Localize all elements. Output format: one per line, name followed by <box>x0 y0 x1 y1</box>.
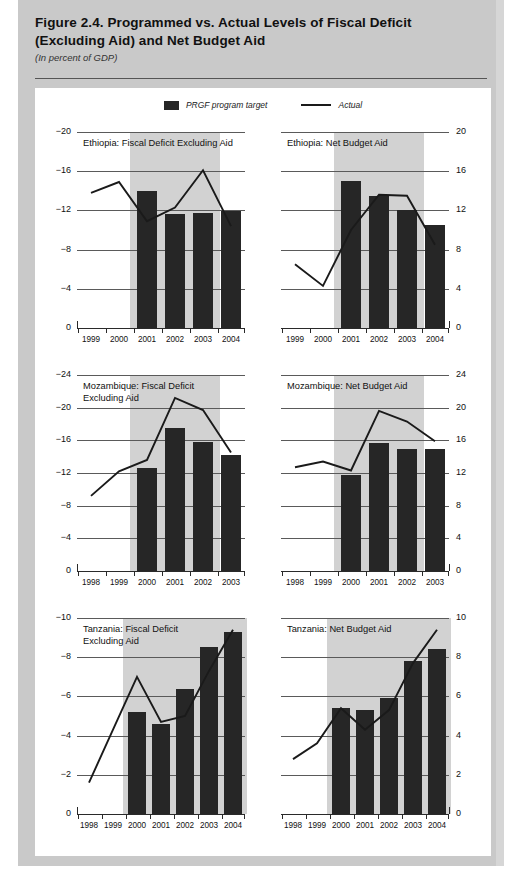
x-axis-tick-label: 2004 <box>421 335 449 344</box>
figure-title: Figure 2.4. Programmed vs. Actual Levels… <box>35 14 487 49</box>
chart-tanzania-fiscal-deficit: 0−2−4−6−8−101998199920002001200220032004… <box>35 604 263 844</box>
actual-line-path <box>89 630 233 783</box>
x-axis-tick-label: 2000 <box>125 821 149 830</box>
figure-title-line2: (Excluding Aid) and Net Budget Aid <box>35 33 265 48</box>
x-axis-tick-label: 1999 <box>105 578 133 587</box>
actual-line-path <box>91 170 231 226</box>
x-axis-tick-label: 2000 <box>105 335 133 344</box>
scan-right-edge <box>496 0 504 866</box>
x-axis-tick-label: 2002 <box>161 335 189 344</box>
actual-line-path <box>295 411 435 471</box>
x-axis-tick-label: 2003 <box>189 335 217 344</box>
legend-item-actual: Actual <box>301 100 362 110</box>
chart-mozambique-fiscal-deficit: 0−4−8−12−16−20−2419981999200020012002200… <box>35 361 263 601</box>
legend-bar-label: PRGF program target <box>186 100 268 110</box>
x-axis-tick-label: 2001 <box>161 578 189 587</box>
x-axis-tick-label: 2000 <box>133 578 161 587</box>
figure-header: Figure 2.4. Programmed vs. Actual Levels… <box>35 14 487 63</box>
legend-line-swatch-icon <box>301 104 331 106</box>
chart-tanzania-net-budget-aid: 02468101998199920002001200220032004Tanza… <box>263 604 491 844</box>
x-axis-tick-label: 2003 <box>393 335 421 344</box>
x-axis-tick-label: 2000 <box>309 335 337 344</box>
chart-ethiopia-fiscal-deficit: 0−4−8−12−16−20199920002001200220032004Et… <box>35 118 263 358</box>
x-axis-tick-label: 2002 <box>365 335 393 344</box>
x-axis-tick-label: 2003 <box>401 821 425 830</box>
x-axis-tick-label: 2002 <box>189 578 217 587</box>
actual-line-path <box>293 630 437 759</box>
subchart-title: Tanzania: Fiscal Deficit Excluding Aid <box>83 624 178 647</box>
x-axis-tick-label: 2003 <box>197 821 221 830</box>
x-axis-tick-label: 1999 <box>309 578 337 587</box>
actual-line-series <box>263 604 491 844</box>
subchart-title: Ethiopia: Fiscal Deficit Excluding Aid <box>83 138 233 150</box>
subchart-title: Tanzania: Net Budget Aid <box>287 624 391 636</box>
x-axis-tick-label: 2001 <box>337 335 365 344</box>
actual-line-path <box>91 398 231 496</box>
actual-line-path <box>295 195 435 286</box>
actual-line-series <box>35 118 263 358</box>
subchart-title: Ethiopia: Net Budget Aid <box>287 138 388 150</box>
x-axis-tick-label: 2004 <box>221 821 245 830</box>
actual-line-series <box>263 361 491 601</box>
legend-line-label: Actual <box>338 100 362 110</box>
actual-line-series <box>263 118 491 358</box>
subchart-title: Mozambique: Fiscal Deficit Excluding Aid <box>83 381 194 404</box>
legend-item-prgf: PRGF program target <box>164 100 268 110</box>
x-axis-tick-label: 1998 <box>77 578 105 587</box>
chart-legend: PRGF program target Actual <box>35 94 491 116</box>
chart-ethiopia-net-budget-aid: 048121620199920002001200220032004Ethiopi… <box>263 118 491 358</box>
chart-grid: 0−4−8−12−16−20199920002001200220032004Et… <box>35 118 491 854</box>
x-axis-tick-label: 2002 <box>173 821 197 830</box>
x-axis-tick-label: 2001 <box>365 578 393 587</box>
x-axis-tick-label: 1999 <box>101 821 125 830</box>
figure-page: Figure 2.4. Programmed vs. Actual Levels… <box>0 0 522 892</box>
x-axis-tick-label: 2001 <box>133 335 161 344</box>
x-axis-tick-label: 2003 <box>217 578 245 587</box>
header-divider <box>35 78 487 79</box>
legend-bar-swatch-icon <box>164 101 179 110</box>
chart-mozambique-net-budget-aid: 04812162024199819992000200120022003Mozam… <box>263 361 491 601</box>
chart-panel: PRGF program target Actual 0−4−8−12−16−2… <box>35 88 491 856</box>
x-axis-tick-label: 2000 <box>337 578 365 587</box>
x-axis-tick-label: 1998 <box>281 821 305 830</box>
x-axis-tick-label: 2000 <box>329 821 353 830</box>
x-axis-tick-label: 1998 <box>281 578 309 587</box>
x-axis-tick-label: 2004 <box>425 821 449 830</box>
x-axis-tick-label: 1999 <box>305 821 329 830</box>
subchart-title: Mozambique: Net Budget Aid <box>287 381 407 393</box>
x-axis-tick-label: 2002 <box>393 578 421 587</box>
x-axis-tick-label: 2004 <box>217 335 245 344</box>
figure-title-line1: Figure 2.4. Programmed vs. Actual Levels… <box>35 15 412 30</box>
x-axis-tick-label: 2002 <box>377 821 401 830</box>
figure-subtitle: (In percent of GDP) <box>35 52 487 63</box>
x-axis-tick-label: 2003 <box>421 578 449 587</box>
x-axis-tick-label: 1998 <box>77 821 101 830</box>
x-axis-tick-label: 2001 <box>353 821 377 830</box>
x-axis-tick-label: 1999 <box>281 335 309 344</box>
x-axis-tick-label: 2001 <box>149 821 173 830</box>
x-axis-tick-label: 1999 <box>77 335 105 344</box>
